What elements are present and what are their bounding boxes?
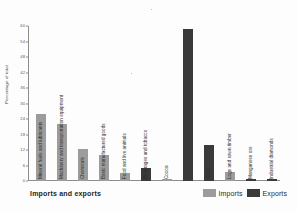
bar-chart: Percentage of total 06121824303642485460…: [0, 0, 297, 213]
legend-item-exports: Exports: [247, 189, 287, 197]
bar-exports[interactable]: [183, 29, 193, 181]
legend-item-imports: Imports: [203, 189, 243, 197]
scan-speck: [151, 9, 152, 10]
bar-imports[interactable]: [162, 179, 172, 181]
legend-label-exports: Exports: [263, 190, 287, 197]
y-axis-tick-label: 48: [20, 55, 25, 59]
bar-group: [204, 26, 214, 181]
bar-exports[interactable]: [246, 179, 256, 181]
bars-layer: Mineral fuels and lubricantsMachinery an…: [28, 26, 280, 181]
bar-group: [183, 26, 193, 181]
bar-category-label: Basic manufactured goods: [101, 123, 106, 179]
bar-category-label: Mineral fuels and lubricants: [38, 122, 43, 179]
y-axis-tick-label: 18: [20, 132, 25, 136]
bar-group: [162, 26, 172, 181]
y-axis-tick-label: 30: [20, 101, 25, 105]
bar-category-label: Gold: [206, 169, 211, 179]
bar-category-label: Machinery and transportation equipment: [59, 95, 64, 179]
legend: Imports Exports: [203, 189, 287, 197]
bar-category-label: Logs and sawn timber: [227, 133, 232, 179]
y-axis-tick-label: 42: [20, 70, 25, 74]
bar-category-label: Chemicals: [80, 157, 85, 179]
y-axis-tick-label: 12: [20, 148, 25, 152]
bar-category-label: Cocoa: [164, 165, 169, 179]
y-axis-tick-label: 36: [20, 86, 25, 90]
bar-exports[interactable]: [267, 179, 277, 181]
bar-category-label: Manganese ore: [248, 146, 253, 179]
y-axis-tick-label: 60: [20, 24, 25, 28]
y-axis-tick-label: 24: [20, 117, 25, 121]
legend-label-imports: Imports: [219, 190, 243, 197]
y-axis-tick-label: 6: [23, 163, 25, 167]
y-axis-tick-label: 54: [20, 39, 25, 43]
y-axis-title: Percentage of total: [4, 65, 9, 104]
y-axis-tick-label: 0: [23, 179, 25, 183]
legend-swatch-exports-icon: [247, 189, 260, 197]
legend-swatch-imports-icon: [203, 189, 216, 197]
bar-category-label: Industrial diamonds: [269, 138, 274, 179]
bar-category-label: Food and live animals: [122, 133, 127, 179]
bar-category-label: Beverages and tobacco: [143, 130, 148, 179]
y-axis: Percentage of total 06121824303642485460: [0, 26, 28, 181]
x-axis-title: Imports and exports: [30, 190, 101, 197]
